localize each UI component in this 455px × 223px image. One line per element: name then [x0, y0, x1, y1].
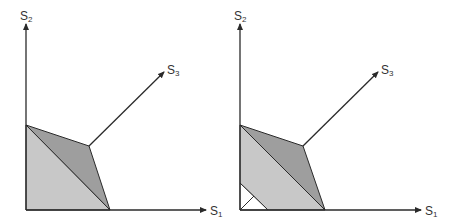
s2-label: S2: [20, 9, 33, 24]
s3-label: S3: [167, 63, 180, 78]
s2-label: S2: [234, 9, 247, 24]
left-diagram: S2 S1 S3: [20, 9, 223, 219]
diagrams-svg: S2 S1 S3 S2 S1 S3: [0, 0, 455, 223]
right-diagram: S2 S1 S3: [234, 9, 438, 219]
diagram-canvas: S2 S1 S3 S2 S1 S3: [0, 0, 455, 223]
s1-label: S1: [425, 204, 438, 219]
s3-label: S3: [381, 63, 394, 78]
s1-label: S1: [210, 204, 223, 219]
s3-axis: [303, 72, 378, 146]
s3-axis: [89, 72, 164, 146]
